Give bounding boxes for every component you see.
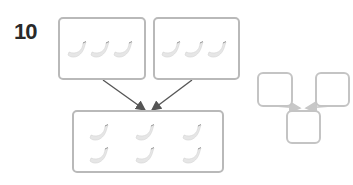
banana-icon	[89, 40, 111, 64]
banana-icon	[134, 146, 156, 170]
banana-icon	[183, 40, 205, 64]
answer-box-right[interactable]	[315, 72, 350, 107]
banana-icon	[66, 40, 88, 64]
banana-icon	[112, 40, 134, 64]
banana-icon	[134, 123, 156, 147]
banana-icon	[181, 123, 203, 147]
banana-icon	[181, 146, 203, 170]
arrow-right-to-result	[152, 80, 192, 110]
banana-icon	[160, 40, 182, 64]
banana-icon	[206, 40, 228, 64]
answer-box-result[interactable]	[286, 110, 321, 144]
arrow-left-to-result	[103, 80, 145, 110]
banana-icon	[88, 123, 110, 147]
banana-icon	[88, 146, 110, 170]
answer-box-left[interactable]	[257, 72, 293, 107]
